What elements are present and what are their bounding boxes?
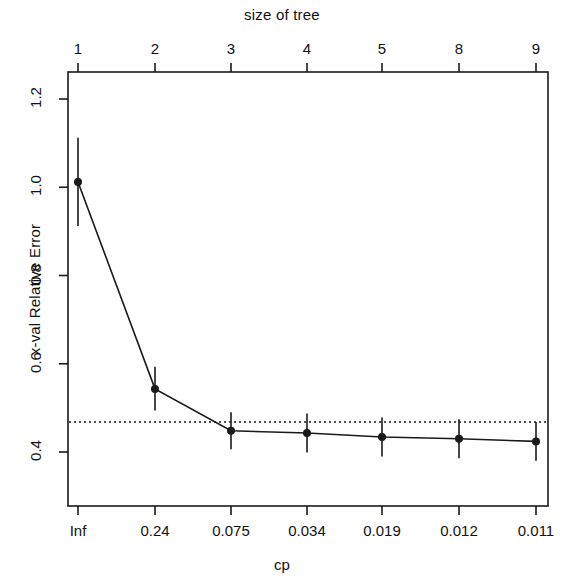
axis-frame — [59, 63, 548, 515]
data-point-5 — [456, 435, 463, 442]
y-tick-marks — [59, 99, 68, 452]
data-point-0 — [75, 179, 82, 186]
rpart-cp-plot: size of tree cp x-val Relative Error 123… — [0, 0, 564, 582]
data-point-4 — [379, 434, 386, 441]
top-tick-marks — [78, 63, 536, 72]
plot-canvas — [0, 0, 564, 582]
plot-box — [68, 72, 548, 506]
error-bars — [78, 138, 536, 461]
bottom-tick-marks — [78, 506, 536, 515]
data-point-2 — [228, 427, 235, 434]
data-point-1 — [152, 386, 159, 393]
data-point-3 — [304, 430, 311, 437]
data-point-6 — [533, 438, 540, 445]
data-points — [75, 179, 540, 445]
data-line — [78, 182, 536, 441]
